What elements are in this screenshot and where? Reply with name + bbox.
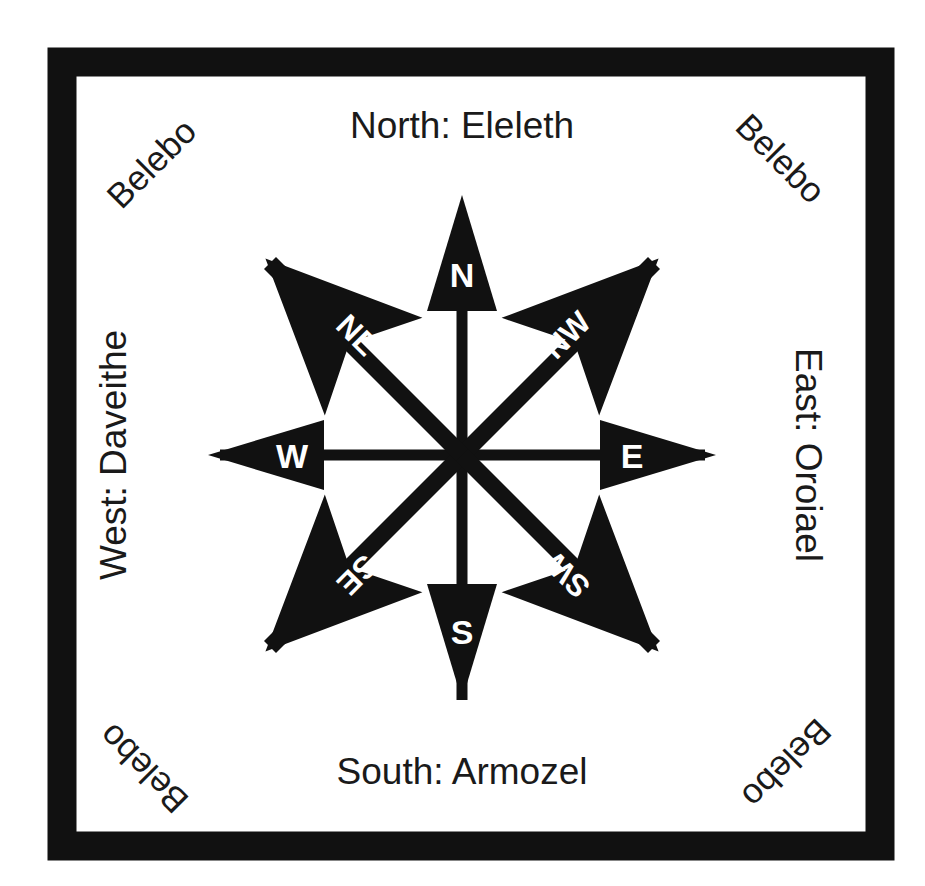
compass-rose-canvas: N S E W NE NW S [0,0,925,886]
needle-label-south: S [451,613,474,651]
needle-label-east: E [621,437,644,475]
label-east: East: Oroiael [788,348,829,562]
label-south: South: Armozel [337,751,588,792]
compass-rose-figure: N S E W NE NW S [0,0,925,886]
needle-label-west: W [276,437,309,475]
needle-label-north: N [450,256,475,294]
label-west: West: Daveithe [93,330,134,580]
label-north: North: Eleleth [350,105,574,146]
